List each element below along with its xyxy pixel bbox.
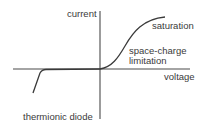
saturation-annotation: saturation [152, 21, 194, 31]
space-charge-line2: limitation [129, 56, 187, 66]
thermionic-diode-diagram: current saturation space-charge limitati… [0, 0, 208, 127]
x-axis-label: voltage [164, 72, 195, 82]
y-axis-label: current [67, 9, 97, 19]
space-charge-annotation: space-charge limitation [129, 46, 187, 66]
reverse-breakdown-curve [33, 69, 100, 93]
diagram-title: thermionic diode [23, 112, 93, 122]
